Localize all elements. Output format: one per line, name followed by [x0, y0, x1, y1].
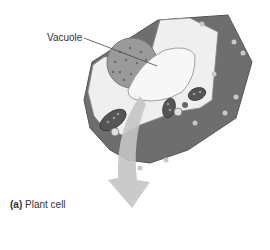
vacuole-label: Vacuole — [47, 32, 82, 43]
caption-text: Plant cell — [25, 199, 66, 210]
figure-caption: (a) Plant cell — [10, 199, 66, 210]
caption-prefix: (a) — [10, 199, 22, 210]
plant-cell-diagram — [0, 0, 270, 250]
